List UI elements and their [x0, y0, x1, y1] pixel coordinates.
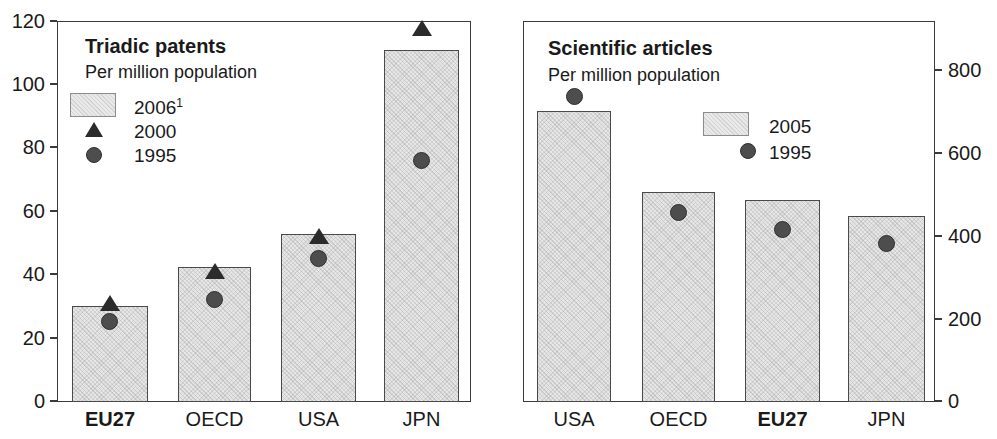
marker-triangle-usa-2000 — [309, 228, 329, 244]
marker-circle-eu27-1995 — [101, 313, 118, 330]
y-axis-label-200-right: 200 — [948, 309, 981, 329]
x-label-eu27-left: EU27 — [72, 409, 148, 429]
marker-circle-jpn-1995 — [413, 152, 430, 169]
legend-label-2006: 20061 — [134, 97, 183, 117]
marker-circle-oecd-1995-right — [670, 204, 687, 221]
legend-circle-1995 — [86, 147, 102, 163]
left-panel-subtitle: Per million population — [85, 63, 257, 81]
y-axis-label-0-left: 0 — [0, 391, 45, 411]
y-axis-label-60-left: 60 — [0, 201, 45, 221]
legend-footnote-marker-2006: 1 — [176, 96, 183, 110]
legend-swatch-2006 — [70, 93, 116, 117]
bar-oecd-2005 — [642, 192, 715, 402]
marker-circle-usa-1995 — [310, 250, 327, 267]
y-axis-label-0-right: 0 — [948, 391, 959, 411]
x-label-jpn-right: JPN — [848, 409, 925, 429]
bar-oecd-2006 — [178, 267, 251, 402]
y-tick-60-left — [50, 210, 57, 212]
marker-circle-oecd-1995 — [206, 291, 223, 308]
marker-circle-jpn-1995-right — [878, 235, 895, 252]
y-tick-600-right — [935, 152, 942, 154]
y-axis-label-20-left: 20 — [0, 328, 45, 348]
y-axis-label-40-left: 40 — [0, 264, 45, 284]
bar-usa-2005 — [537, 111, 611, 402]
x-label-jpn-left: JPN — [384, 409, 459, 429]
x-label-oecd-left: OECD — [178, 409, 251, 429]
right-panel-subtitle: Per million population — [548, 66, 720, 84]
legend-label-1995: 1995 — [134, 146, 176, 165]
y-tick-0-right — [935, 400, 942, 402]
panel-scientific-articles: 800 600 400 200 0 Scientific articles Pe… — [490, 0, 997, 439]
x-label-usa-right: USA — [537, 409, 611, 429]
y-tick-0-left — [50, 400, 57, 402]
y-tick-80-left — [50, 146, 57, 148]
y-axis-label-100-left: 100 — [0, 74, 45, 94]
legend-circle-1995-right — [740, 143, 756, 159]
legend-label-2000: 2000 — [134, 122, 176, 141]
y-tick-400-right — [935, 235, 942, 237]
marker-triangle-eu27-2000 — [100, 295, 120, 311]
legend-label-1995-right: 1995 — [769, 143, 811, 162]
panel-triadic-patents: 120 100 80 60 40 20 0 Triadic patents Pe… — [0, 0, 490, 439]
marker-circle-eu27-1995-right — [774, 221, 791, 238]
marker-triangle-oecd-2000 — [205, 263, 225, 279]
left-panel-title: Triadic patents — [85, 36, 226, 56]
y-axis-label-80-left: 80 — [0, 137, 45, 157]
two-panel-bar-chart-figure: 120 100 80 60 40 20 0 Triadic patents Pe… — [0, 0, 997, 439]
marker-circle-usa-1995-right — [566, 88, 583, 105]
legend-swatch-2005 — [703, 112, 749, 136]
legend-label-2006-text: 2006 — [134, 97, 176, 118]
y-axis-label-600-right: 600 — [948, 143, 981, 163]
y-axis-label-120-left: 120 — [0, 11, 45, 31]
x-label-usa-left: USA — [281, 409, 356, 429]
y-axis-label-800-right: 800 — [948, 60, 981, 80]
x-label-eu27-right: EU27 — [745, 409, 820, 429]
y-tick-20-left — [50, 337, 57, 339]
y-axis-label-400-right: 400 — [948, 226, 981, 246]
y-tick-100-left — [50, 83, 57, 85]
bar-jpn-2006 — [384, 50, 459, 402]
y-tick-200-right — [935, 318, 942, 320]
legend-triangle-2000 — [85, 122, 103, 137]
legend-label-2005: 2005 — [769, 117, 811, 136]
y-tick-120-left — [50, 20, 57, 22]
y-tick-40-left — [50, 273, 57, 275]
right-panel-title: Scientific articles — [548, 38, 713, 58]
x-label-oecd-right: OECD — [642, 409, 715, 429]
marker-triangle-jpn-2000 — [412, 20, 432, 36]
y-tick-800-right — [935, 69, 942, 71]
